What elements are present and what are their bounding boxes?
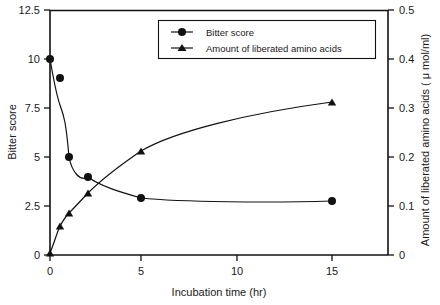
bitter-score-marker-4 <box>137 194 145 202</box>
left-tick-label-0: 0 <box>34 249 40 261</box>
legend-label-bitter-score: Bitter score <box>206 27 254 38</box>
right-tick-label-1: 0.1 <box>399 200 414 212</box>
amino-acids-marker-0 <box>46 250 54 257</box>
x-tick-label-1: 5 <box>138 265 144 277</box>
x-axis-title: Incubation time (hr) <box>172 286 267 298</box>
x-tick-label-3: 15 <box>326 265 338 277</box>
right-axis-tick-labels: 0 0.1 0.2 0.3 0.4 0.5 <box>399 4 414 261</box>
bitter-score-marker-2 <box>65 153 73 161</box>
amino-acids-marker-4 <box>137 148 145 155</box>
amino-acids-marker-1 <box>56 223 64 230</box>
bitter-score-marker-5 <box>328 197 336 205</box>
left-axis-tick-labels: 0 2.5 5 7.5 10 12.5 <box>19 4 40 261</box>
amino-acids-curve <box>50 102 332 253</box>
right-tick-label-3: 0.3 <box>399 102 414 114</box>
x-tick-label-0: 0 <box>47 265 53 277</box>
x-axis-ticks <box>50 255 332 261</box>
y-right-axis-title: Amount of liberated amino acids ( μ mol/… <box>419 34 431 246</box>
left-tick-label-3: 7.5 <box>25 102 40 114</box>
bitter-score-marker-0 <box>46 55 54 63</box>
right-axis-ticks <box>388 10 394 255</box>
left-tick-label-2: 5 <box>34 151 40 163</box>
left-tick-label-4: 10 <box>28 53 40 65</box>
chart-legend: Bitter score Amount of liberated amino a… <box>159 21 376 59</box>
x-axis-tick-labels: 0 5 10 15 <box>47 265 338 277</box>
circle-marker-icon <box>178 28 186 36</box>
series-bitter-score <box>46 55 336 205</box>
left-tick-label-5: 12.5 <box>19 4 40 16</box>
right-tick-label-4: 0.4 <box>399 53 414 65</box>
chart-figure: 0 2.5 5 7.5 10 12.5 0 0.1 0.2 0.3 0.4 0.… <box>0 0 440 305</box>
right-tick-label-0: 0 <box>399 249 405 261</box>
right-tick-label-5: 0.5 <box>399 4 414 16</box>
bitter-score-marker-3 <box>84 173 92 181</box>
bitter-score-marker-1 <box>56 74 64 82</box>
left-tick-label-1: 2.5 <box>25 200 40 212</box>
left-axis-ticks <box>44 10 50 255</box>
chart-svg: 0 2.5 5 7.5 10 12.5 0 0.1 0.2 0.3 0.4 0.… <box>0 0 440 305</box>
right-tick-label-2: 0.2 <box>399 151 414 163</box>
legend-label-amino-acids: Amount of liberated amino acids <box>206 43 342 54</box>
x-tick-label-2: 10 <box>231 265 243 277</box>
y-left-axis-title: Bitter score <box>6 104 18 160</box>
